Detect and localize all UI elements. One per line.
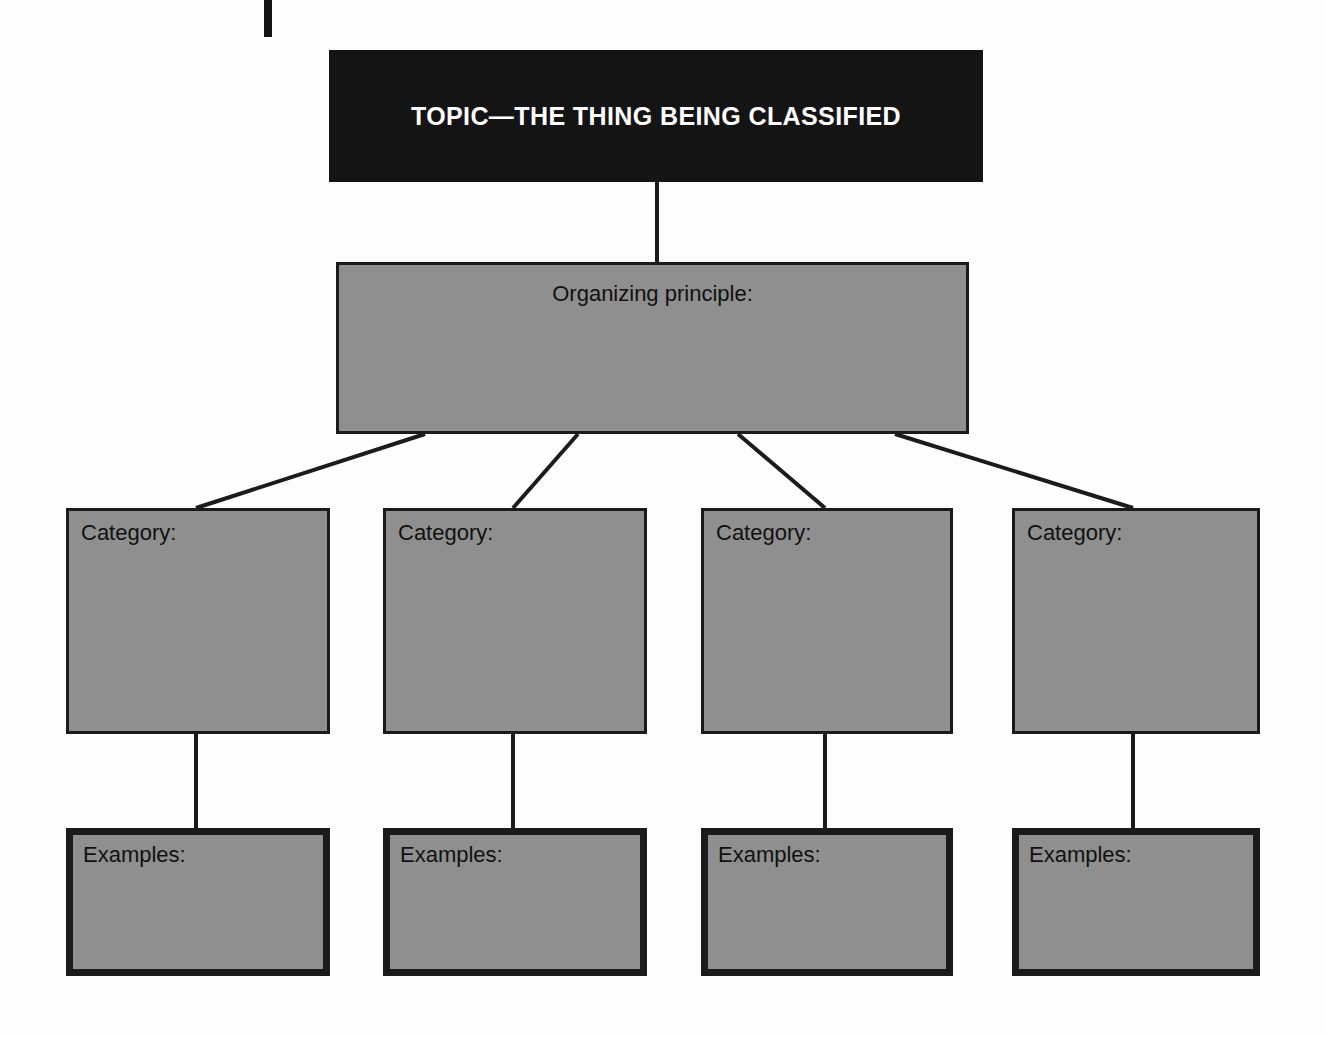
category-label-3: Category: [716, 520, 811, 546]
examples-label-4: Examples: [1029, 842, 1132, 868]
category-box-4[interactable]: Category: [1012, 508, 1260, 734]
category-label-4: Category: [1027, 520, 1122, 546]
topic-label: TOPIC—THE THING BEING CLASSIFIED [411, 102, 901, 131]
category-box-1[interactable]: Category: [66, 508, 330, 734]
organizing-principle-label: Organizing principle: [339, 281, 966, 307]
examples-label-3: Examples: [718, 842, 821, 868]
examples-box-1[interactable]: Examples: [66, 828, 330, 976]
category-box-3[interactable]: Category: [701, 508, 953, 734]
connector-principle-to-category-1 [196, 434, 425, 508]
scan-artifact-mark [264, 0, 272, 37]
organizing-principle-box[interactable]: Organizing principle: [336, 262, 969, 434]
examples-box-4[interactable]: Examples: [1012, 828, 1260, 976]
examples-label-1: Examples: [83, 842, 186, 868]
connector-principle-to-category-4 [895, 434, 1133, 508]
examples-box-2[interactable]: Examples: [383, 828, 647, 976]
connector-principle-to-category-2 [513, 434, 578, 508]
examples-label-2: Examples: [400, 842, 503, 868]
topic-box[interactable]: TOPIC—THE THING BEING CLASSIFIED [329, 50, 983, 182]
category-box-2[interactable]: Category: [383, 508, 647, 734]
category-label-1: Category: [81, 520, 176, 546]
examples-box-3[interactable]: Examples: [701, 828, 953, 976]
diagram-canvas: TOPIC—THE THING BEING CLASSIFIED Organiz… [0, 0, 1326, 1037]
connector-principle-to-category-3 [738, 434, 825, 508]
category-label-2: Category: [398, 520, 493, 546]
